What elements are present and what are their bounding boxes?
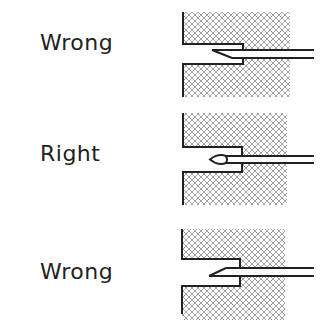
panel-2-right — [183, 113, 315, 205]
panel-1-wrong — [183, 12, 315, 97]
panel-3-wrong — [182, 229, 315, 320]
needle-insertion-diagram — [0, 0, 333, 331]
